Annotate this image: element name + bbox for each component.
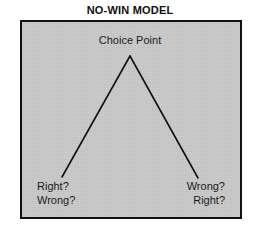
node-label-left-outcome: Right? Wrong? bbox=[37, 179, 75, 207]
left-outcome-line-1: Right? bbox=[37, 179, 75, 193]
left-outcome-line-2: Wrong? bbox=[37, 193, 75, 207]
right-outcome-line-2: Right? bbox=[187, 193, 225, 207]
choice-point-text: Choice Point bbox=[0, 33, 260, 47]
node-label-choice-point: Choice Point bbox=[0, 33, 260, 47]
node-label-right-outcome: Wrong? Right? bbox=[187, 179, 225, 207]
no-win-model-figure: NO-WIN MODEL Choice Point Right? Wrong? … bbox=[0, 0, 260, 234]
figure-title: NO-WIN MODEL bbox=[0, 3, 260, 17]
right-outcome-line-1: Wrong? bbox=[187, 179, 225, 193]
